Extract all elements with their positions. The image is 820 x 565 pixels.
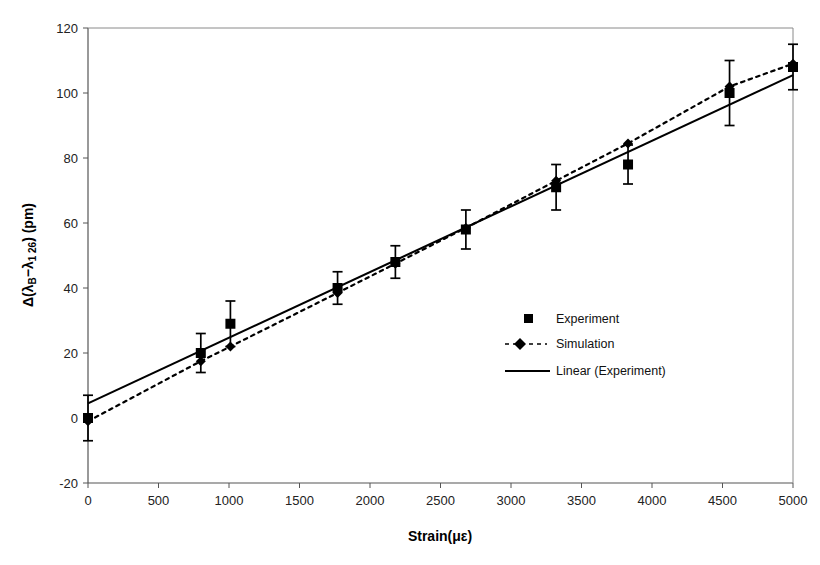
- x-tick-label: 4000: [638, 493, 667, 508]
- chart-legend: Experiment Simulation Linear (Experiment…: [505, 312, 666, 378]
- y-title-sub-1: 1 26: [27, 241, 38, 261]
- strain-wavelength-shift-chart: 0500100015002000250030003500400045005000…: [0, 0, 820, 565]
- experiment-square-marker: [83, 413, 93, 423]
- linear-fit-segment: [88, 75, 793, 403]
- experiment-error-bars: [83, 44, 798, 441]
- x-tick-label: 5000: [779, 493, 808, 508]
- y-title-minus: −: [20, 269, 36, 277]
- experiment-square-marker: [788, 62, 798, 72]
- simulation-diamond-marker: [225, 342, 235, 352]
- linear-fit-line: [88, 75, 793, 403]
- svg-text:Δ(λB−λ1 26) (pm): Δ(λB−λ1 26) (pm): [20, 203, 38, 307]
- simulation-dashed-line: [88, 64, 793, 422]
- y-tick-label: 40: [64, 281, 78, 296]
- experiment-square-marker: [461, 225, 471, 235]
- y-tick-label: 20: [64, 346, 78, 361]
- legend-item-linear-fit: Linear (Experiment): [505, 364, 666, 378]
- experiment-square-marker: [196, 348, 206, 358]
- x-tick-label: 0: [84, 493, 91, 508]
- simulation-diamond-marker: [623, 138, 633, 148]
- experiment-square-marker: [225, 319, 235, 329]
- y-tick-label: 100: [56, 86, 78, 101]
- y-title-sub-b: B: [27, 277, 38, 284]
- y-tick-label: 0: [71, 411, 78, 426]
- x-tick-group: 0500100015002000250030003500400045005000: [84, 483, 807, 508]
- square-marker-icon: [524, 314, 533, 323]
- legend-label-experiment: Experiment: [556, 312, 620, 326]
- x-tick-label: 1000: [215, 493, 244, 508]
- legend-label-linear-experiment: Linear (Experiment): [556, 364, 666, 378]
- y-tick-label: 60: [64, 216, 78, 231]
- y-tick-label: 80: [64, 151, 78, 166]
- diamond-marker-icon: [514, 338, 526, 350]
- x-tick-label: 2500: [426, 493, 455, 508]
- y-axis-title: Δ(λB−λ1 26) (pm): [20, 203, 38, 307]
- x-tick-label: 4500: [708, 493, 737, 508]
- experiment-markers: [83, 62, 798, 423]
- legend-label-simulation: Simulation: [556, 337, 614, 351]
- y-title-delta: Δ(: [20, 292, 36, 307]
- experiment-square-marker: [725, 88, 735, 98]
- x-tick-label: 500: [148, 493, 170, 508]
- simulation-polyline: [88, 64, 793, 422]
- y-title-lambda-1: λ: [20, 261, 36, 269]
- y-tick-label: -20: [59, 476, 78, 491]
- experiment-square-marker: [623, 160, 633, 170]
- experiment-square-marker: [390, 257, 400, 267]
- x-tick-label: 2000: [356, 493, 385, 508]
- chart-figure: 0500100015002000250030003500400045005000…: [0, 0, 820, 565]
- x-axis-title: Strain(με): [408, 528, 472, 544]
- x-tick-label: 3000: [497, 493, 526, 508]
- experiment-square-marker: [551, 182, 561, 192]
- plot-axes: [88, 28, 793, 483]
- x-tick-label: 1500: [285, 493, 314, 508]
- x-tick-label: 3500: [567, 493, 596, 508]
- y-title-close: ) (pm): [20, 203, 36, 242]
- simulation-markers: [83, 59, 798, 427]
- experiment-square-marker: [333, 283, 343, 293]
- y-tick-label: 120: [56, 21, 78, 36]
- legend-item-simulation: Simulation: [505, 337, 614, 351]
- y-title-lambda-b: λ: [20, 284, 36, 292]
- legend-item-experiment: Experiment: [524, 312, 620, 326]
